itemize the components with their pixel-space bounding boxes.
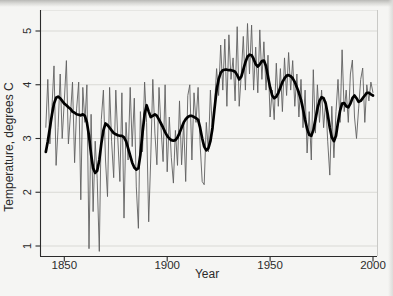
y-tick-label-1: 1 [21, 243, 33, 249]
y-tick-label-4: 4 [21, 82, 33, 88]
y-tick-label-3: 3 [21, 135, 33, 141]
x-axis-title: Year [195, 267, 219, 281]
x-tick-label-1950: 1950 [257, 259, 283, 271]
x-tick-label-2000: 2000 [360, 259, 386, 271]
y-tick-label-5: 5 [21, 28, 33, 34]
temperature-time-series-chart: 123451850190019502000 Temperature, degre… [0, 0, 393, 296]
data-series [46, 24, 373, 252]
y-tick-label-2: 2 [21, 189, 33, 195]
chart-canvas: 123451850190019502000 Temperature, degre… [0, 0, 393, 296]
y-axis-title: Temperature, degrees C [2, 82, 16, 212]
x-tick-label-1850: 1850 [52, 259, 78, 271]
annual-temperature-line [46, 24, 373, 252]
x-tick-label-1900: 1900 [154, 259, 180, 271]
tick-labels: 123451850190019502000 [21, 28, 386, 271]
